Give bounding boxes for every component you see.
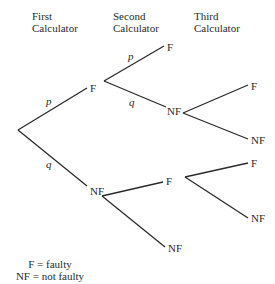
edge-FNF-to-NF: [183, 113, 248, 139]
node-second-F-after-NF: F: [166, 175, 172, 187]
edge-root-to-NF: [18, 130, 87, 186]
node-second-NF-after-NF: NF: [168, 242, 182, 254]
header-third-line1: Third: [194, 10, 219, 22]
legend: F = faulty NF = not faulty: [16, 258, 85, 282]
edge-NF-to-F: [102, 182, 163, 196]
edge-NF-to-NF: [102, 196, 165, 247]
header-first-line1: First: [32, 10, 52, 22]
edge-label-F-top: p: [127, 50, 134, 62]
header-first-line2: Calculator: [32, 22, 78, 34]
node-second-F-after-F: F: [167, 41, 173, 53]
edge-FNF-to-F: [183, 85, 248, 113]
header-first-calculator: First Calculator: [32, 10, 78, 34]
edge-NFF-to-F: [185, 163, 248, 177]
header-second-line2: Calculator: [113, 22, 159, 34]
node-third-F-after-NFF: F: [251, 157, 257, 169]
node-first-F: F: [90, 82, 96, 94]
header-second-calculator: Second Calculator: [113, 10, 159, 34]
edge-root-to-F: [18, 88, 87, 130]
header-third-line2: Calculator: [194, 22, 240, 34]
edge-label-F-bottom: q: [129, 96, 135, 108]
edge-F-to-F: [104, 46, 164, 81]
legend-faulty: F = faulty: [28, 258, 72, 270]
node-third-NF-after-FNF: NF: [251, 134, 265, 146]
header-third-calculator: Third Calculator: [194, 10, 240, 34]
header-second-line1: Second: [113, 10, 146, 22]
node-third-F-after-FNF: F: [251, 80, 257, 92]
probability-tree-diagram: First Calculator Second Calculator Third…: [0, 0, 275, 284]
edge-NFF-to-NF: [185, 177, 248, 218]
node-third-NF-after-NFF: NF: [251, 212, 265, 224]
edge-label-root-top: p: [45, 95, 52, 107]
node-first-NF: NF: [90, 185, 104, 197]
edge-label-root-bottom: q: [46, 158, 52, 170]
tree-edges: [18, 46, 248, 247]
edge-F-to-NF: [104, 81, 166, 107]
node-second-NF-after-F: NF: [167, 105, 181, 117]
legend-not-faulty: NF = not faulty: [16, 270, 85, 282]
